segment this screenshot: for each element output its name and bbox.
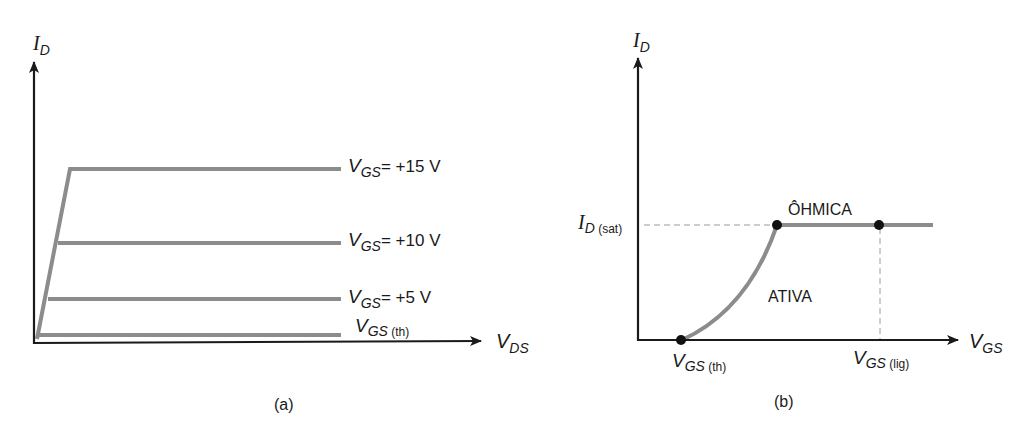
vgs-lig-point xyxy=(874,220,884,230)
vgs-th-point xyxy=(676,335,686,345)
saturation-knee-point xyxy=(772,220,782,230)
curve-vgs-15 xyxy=(37,169,341,339)
region-active-label: ATIVA xyxy=(768,288,812,305)
curve-label-vgs-10: VGS= +10 V xyxy=(348,229,441,254)
region-ohmic-label: ÔHMICA xyxy=(788,200,852,218)
vgs-lig-label: VGS (lig) xyxy=(853,347,909,371)
y-axis-label: ID xyxy=(632,29,650,55)
vgs-th-label: VGS (th) xyxy=(672,350,726,374)
x-axis-label: VGS xyxy=(969,330,1003,356)
transfer-curve xyxy=(682,225,933,340)
figure-a: ID VDS VGS= +15 V VGS= +10 V VGS= +5 V V… xyxy=(32,32,529,413)
x-axis xyxy=(33,341,481,343)
curve-family xyxy=(37,169,341,339)
caption-a: (a) xyxy=(274,396,294,413)
y-axis-label: ID xyxy=(32,32,50,58)
caption-b: (b) xyxy=(774,393,794,410)
curve-label-vgs-th: VGS (th) xyxy=(355,315,409,339)
x-axis-label: VDS xyxy=(496,330,529,356)
curve-label-vgs-15: VGS= +15 V xyxy=(348,155,441,180)
figure-canvas: ID VDS VGS= +15 V VGS= +10 V VGS= +5 V V… xyxy=(0,0,1021,432)
figure-b: ID VGS ID (sat) ÔHMICA ATIVA VGS (th) VG… xyxy=(577,29,1003,410)
id-sat-label: ID (sat) xyxy=(577,211,622,236)
curve-label-vgs-5: VGS= +5 V xyxy=(348,286,432,311)
